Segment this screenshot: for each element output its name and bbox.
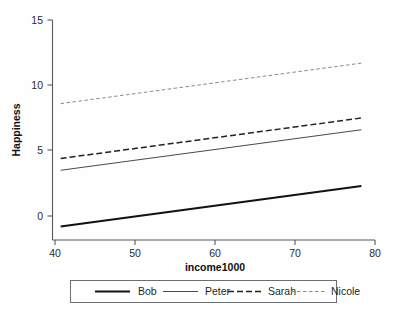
x-tick-label-40: 40: [49, 247, 61, 259]
line-chart: 15 10 5 0 Happiness 40 50 60 70 80 incom…: [0, 0, 407, 313]
series-group: [61, 63, 362, 226]
x-tick-label-50: 50: [129, 247, 141, 259]
y-tick-label-10: 10: [31, 79, 43, 91]
y-tick-label-0: 0: [37, 210, 43, 222]
y-tick-label-15: 15: [31, 14, 43, 26]
x-axis-title: income1000: [185, 261, 245, 273]
series-line-nicole: [61, 63, 362, 104]
legend-label-peter: Peter: [205, 285, 231, 297]
legend-label-nicole: Nicole: [331, 285, 360, 297]
legend: Bob Peter Sarah Nicole: [71, 281, 361, 303]
x-tick-label-80: 80: [369, 247, 381, 259]
x-tick-label-70: 70: [289, 247, 301, 259]
series-line-sarah: [61, 118, 362, 159]
series-line-peter: [61, 130, 362, 171]
series-line-bob: [61, 186, 362, 227]
y-tick-label-5: 5: [37, 144, 43, 156]
y-axis-title: Happiness: [10, 103, 22, 156]
x-tick-label-60: 60: [209, 247, 221, 259]
legend-label-bob: Bob: [138, 285, 157, 297]
chart-figure: 15 10 5 0 Happiness 40 50 60 70 80 incom…: [0, 0, 407, 313]
